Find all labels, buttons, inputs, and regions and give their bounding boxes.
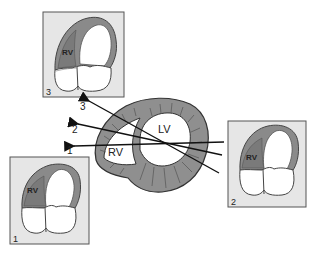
lv-label: LV — [158, 123, 171, 135]
plane-3-label: 3 — [80, 101, 86, 112]
view-panel-2: RV 2 — [228, 121, 306, 207]
view-2-rv-label: RV — [246, 153, 258, 162]
view-2-number: 2 — [231, 197, 236, 207]
echo-planes-diagram: RV 3 RV 2 RV 1 — [0, 0, 320, 257]
view-panel-1: RV 1 — [10, 157, 89, 244]
plane-1-label: 1 — [67, 145, 73, 156]
view-1-number: 1 — [13, 234, 18, 244]
view-panel-3: RV 3 — [43, 12, 124, 97]
view-3-rv-label: RV — [62, 48, 74, 57]
rv-label: RV — [108, 146, 124, 158]
view-3-number: 3 — [46, 87, 51, 97]
plane-2-label: 2 — [72, 124, 78, 135]
view-1-rv-label: RV — [27, 186, 39, 195]
